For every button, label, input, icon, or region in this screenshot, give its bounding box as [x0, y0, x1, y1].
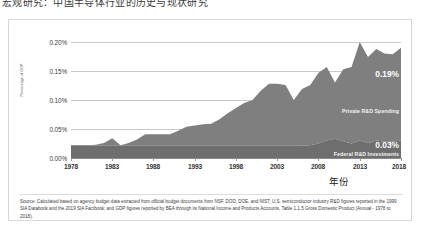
y-tick-label-4: 0.20%: [31, 39, 67, 46]
x-tick-mark-2013: [360, 158, 361, 161]
x-tick-label-6: 2008: [298, 163, 338, 170]
x-axis-title: 年份: [299, 174, 379, 188]
x-tick-label-3: 1993: [175, 163, 215, 170]
x-tick-label-0: 1978: [51, 163, 91, 170]
series-label-federal: Federal R&D Investments: [269, 151, 399, 157]
x-tick-label-8: 2018: [379, 163, 419, 170]
x-tick-mark-1993: [195, 158, 196, 161]
y-tick-label-3: 0.15%: [31, 68, 67, 75]
x-tick-label-4: 1998: [216, 163, 256, 170]
y-tick-label-1: 0.05%: [31, 126, 67, 133]
y-tick-label-0: 0.00%: [31, 155, 67, 162]
x-tick-mark-1998: [236, 158, 237, 161]
value-label-private: 0.19%: [299, 69, 399, 79]
value-label-federal: 0.03%: [299, 140, 399, 150]
x-tick-mark-2003: [277, 158, 278, 161]
x-tick-mark-2008: [318, 158, 319, 161]
x-tick-mark-1988: [153, 158, 154, 161]
x-tick-label-1: 1983: [92, 163, 132, 170]
chart-figure: Percentage of GDP 0.20% 0.15% 0.10% 0.05…: [8, 19, 412, 221]
source-divider: [19, 194, 403, 195]
source-note: Source: Calculated based on agency budge…: [20, 198, 403, 220]
y-axis-title: Percentage of GDP: [20, 50, 24, 110]
page-caption: 宏观研究：中国半导体行业的历史与现状研究: [2, 0, 208, 9]
series-label-private: Private R&D Spending: [269, 108, 399, 114]
area-private-rd-spending: [71, 42, 401, 146]
x-tick-mark-1978: [71, 158, 72, 161]
y-tick-label-2: 0.10%: [31, 97, 67, 104]
x-tick-label-7: 2013: [340, 163, 380, 170]
x-tick-label-5: 2003: [257, 163, 297, 170]
x-tick-mark-1983: [112, 158, 113, 161]
chart-plot-area: Percentage of GDP 0.20% 0.15% 0.10% 0.05…: [9, 20, 413, 170]
x-tick-label-2: 1988: [133, 163, 173, 170]
x-tick-mark-2018: [401, 158, 402, 161]
